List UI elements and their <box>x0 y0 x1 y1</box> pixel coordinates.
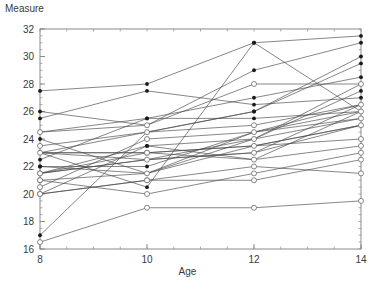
x-tick-label: 10 <box>141 254 153 265</box>
data-point-marker <box>145 205 150 210</box>
data-point-marker <box>252 96 256 100</box>
data-point-marker <box>38 89 42 93</box>
data-point-marker <box>359 89 363 93</box>
data-point-marker <box>38 171 43 176</box>
data-point-marker <box>252 150 257 155</box>
data-point-marker <box>359 82 364 87</box>
data-point-marker <box>252 103 256 107</box>
data-point-marker <box>145 178 150 183</box>
data-point-marker <box>38 116 42 120</box>
data-point-marker <box>359 157 364 162</box>
data-point-marker <box>38 192 43 197</box>
data-point-marker <box>252 116 256 120</box>
data-point-marker <box>252 164 257 169</box>
series-line <box>40 201 361 242</box>
data-point-marker <box>145 82 149 86</box>
y-tick-label: 22 <box>23 161 35 172</box>
data-point-marker <box>359 116 364 121</box>
data-point-marker <box>359 61 363 65</box>
data-point-marker <box>359 102 364 107</box>
y-axis-tick-labels: 161820222426283032 <box>23 24 35 255</box>
data-point-marker <box>359 137 364 142</box>
data-point-marker <box>145 116 149 120</box>
data-point-marker <box>38 178 43 183</box>
data-point-marker <box>359 150 364 155</box>
data-point-marker <box>38 110 42 114</box>
data-point-marker <box>252 41 256 45</box>
x-tick-label: 12 <box>248 254 260 265</box>
data-point-marker <box>252 205 257 210</box>
data-point-marker <box>38 240 43 245</box>
data-point-marker <box>252 143 257 148</box>
data-point-marker <box>252 137 257 142</box>
x-tick-label: 14 <box>355 254 367 265</box>
y-axis-minor-ticks <box>40 29 361 249</box>
data-point-marker <box>145 171 150 176</box>
data-point-marker <box>252 157 257 162</box>
x-axis-minor-ticks <box>40 29 361 249</box>
data-point-marker <box>145 123 150 128</box>
y-tick-label: 16 <box>23 244 35 255</box>
data-point-marker <box>359 41 363 45</box>
data-point-marker <box>252 123 257 128</box>
data-point-marker <box>38 137 42 141</box>
y-tick-label: 20 <box>23 189 35 200</box>
data-point-marker <box>359 123 364 128</box>
series-markers-group <box>38 34 364 245</box>
data-point-marker <box>252 171 257 176</box>
y-tick-label: 24 <box>23 134 35 145</box>
data-point-marker <box>145 150 150 155</box>
data-point-marker <box>359 198 364 203</box>
series-lines-group <box>40 36 361 242</box>
data-point-marker <box>359 96 363 100</box>
data-point-marker <box>252 130 257 135</box>
data-point-marker <box>359 171 364 176</box>
data-point-marker <box>252 68 256 72</box>
line-chart-plot: 161820222426283032 8101214 <box>0 0 375 289</box>
data-point-marker <box>252 110 256 114</box>
data-point-marker <box>359 109 364 114</box>
y-tick-label: 30 <box>23 51 35 62</box>
data-point-marker <box>145 89 149 93</box>
y-tick-label: 26 <box>23 106 35 117</box>
data-point-marker <box>38 158 42 162</box>
data-point-marker <box>38 150 43 155</box>
data-point-marker <box>145 185 149 189</box>
data-point-marker <box>145 130 150 135</box>
data-point-marker <box>359 34 363 38</box>
data-point-marker <box>38 143 43 148</box>
data-point-marker <box>38 165 42 169</box>
data-point-marker <box>145 137 150 142</box>
x-tick-label: 8 <box>37 254 43 265</box>
data-point-marker <box>38 130 43 135</box>
chart-container: Measure Age 161820222426283032 8101214 <box>0 0 375 289</box>
data-point-marker <box>145 144 149 148</box>
data-point-marker <box>359 55 363 59</box>
data-point-marker <box>145 165 149 169</box>
y-tick-label: 32 <box>23 24 35 35</box>
data-point-marker <box>359 143 364 148</box>
series-line <box>40 105 361 146</box>
data-point-marker <box>145 157 150 162</box>
y-tick-label: 18 <box>23 216 35 227</box>
plot-frame <box>40 29 361 249</box>
x-axis-tick-labels: 8101214 <box>37 254 367 265</box>
data-point-marker <box>38 233 42 237</box>
data-point-marker <box>252 178 257 183</box>
data-point-marker <box>359 75 363 79</box>
series-line <box>40 36 361 91</box>
data-point-marker <box>145 192 150 197</box>
data-point-marker <box>252 82 257 87</box>
y-tick-label: 28 <box>23 79 35 90</box>
data-point-marker <box>38 185 43 190</box>
